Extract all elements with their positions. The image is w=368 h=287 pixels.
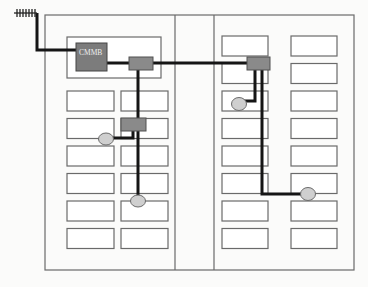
outlet-right-2	[301, 188, 316, 201]
left-room	[121, 229, 168, 249]
left-room	[67, 174, 114, 194]
outlet-right-1	[232, 98, 247, 111]
splitter-left-mid	[121, 118, 146, 131]
right-room	[291, 119, 337, 139]
antenna-icon	[14, 9, 37, 17]
left-room	[67, 91, 114, 111]
right-room	[291, 64, 337, 84]
right-room	[222, 201, 268, 221]
right-room	[222, 36, 268, 56]
splitter-main-right	[247, 57, 270, 70]
left-room	[67, 146, 114, 166]
left-room	[121, 91, 168, 111]
left-room	[67, 229, 114, 249]
left-room	[121, 146, 168, 166]
left-wing-rooms	[67, 91, 168, 249]
outlet-left-2	[131, 195, 146, 207]
right-room	[291, 146, 337, 166]
right-room	[291, 36, 337, 56]
right-room	[222, 229, 268, 249]
splitter-main-left	[129, 57, 153, 70]
left-room	[121, 174, 168, 194]
outlet-left-1	[99, 133, 114, 145]
cmmb-label: CMMB	[79, 48, 102, 57]
distribution-diagram: CMMB	[0, 0, 368, 287]
right-wing-rooms	[222, 36, 337, 249]
right-room	[291, 91, 337, 111]
right-room	[291, 229, 337, 249]
left-room	[67, 201, 114, 221]
right-room	[291, 201, 337, 221]
